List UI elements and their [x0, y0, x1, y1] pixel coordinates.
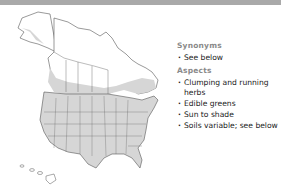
synonym-item: See below [177, 53, 281, 63]
aspect-item: Soils variable; see below [177, 121, 281, 131]
header-bar [0, 0, 281, 5]
usa-region [40, 92, 158, 168]
aspect-item: Edible greens [177, 99, 281, 109]
hawaii-region [20, 165, 56, 184]
synonyms-heading: Synonyms [177, 41, 281, 51]
aspects-heading: Aspects [177, 66, 281, 76]
range-map [8, 8, 168, 188]
plant-info-panel: Synonyms See below Aspects Clumping and … [177, 41, 281, 132]
aspect-item: Sun to shade [177, 110, 281, 120]
alaska-region [18, 12, 56, 52]
aspect-item: Clumping and running herbs [177, 78, 281, 98]
